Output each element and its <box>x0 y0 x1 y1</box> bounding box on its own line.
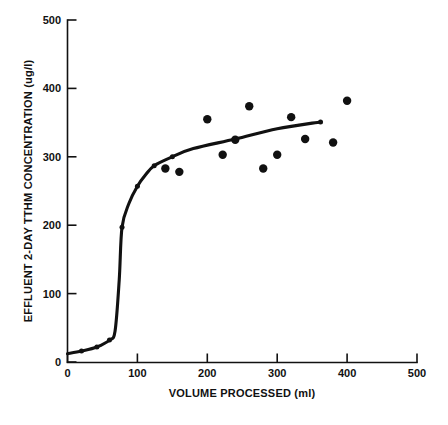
curve-node <box>79 349 84 354</box>
x-axis-title: VOLUME PROCESSED (ml) <box>169 387 316 399</box>
scatter-point <box>231 136 239 144</box>
x-axis-group: 0 100 200 300 400 500 VOLUME PROCESSED (… <box>64 354 426 400</box>
scatter-point <box>218 151 226 159</box>
y-tick-label-0: 0 <box>55 356 61 368</box>
x-tick-label-400: 400 <box>338 367 356 379</box>
curve-node <box>94 344 99 349</box>
scatter-point <box>259 164 267 172</box>
y-axis-group: 500 400 300 200 100 0 EFFLUENT 2-DAY TTH… <box>22 14 77 368</box>
cropped-caption <box>0 419 448 425</box>
y-tick-label-500: 500 <box>43 14 61 26</box>
scatter-point <box>161 164 169 172</box>
scatter-point <box>301 135 309 143</box>
x-tick-label-100: 100 <box>128 367 146 379</box>
figure-container: 500 400 300 200 100 0 EFFLUENT 2-DAY TTH… <box>0 0 448 425</box>
x-tick-label-300: 300 <box>268 367 286 379</box>
scatter-point <box>329 138 337 146</box>
scatter-point <box>245 102 253 110</box>
y-tick-label-300: 300 <box>43 151 61 163</box>
y-axis-title: EFFLUENT 2-DAY TTHM CONCENTRATION (ug/l) <box>22 60 34 323</box>
y-tick-label-200: 200 <box>43 219 61 231</box>
fitted-breakthrough-curve <box>68 122 321 354</box>
x-tick-label-200: 200 <box>198 367 216 379</box>
x-tick-label-0: 0 <box>64 367 70 379</box>
curve-node <box>170 154 175 159</box>
scatter-point <box>175 168 183 176</box>
curve-node <box>135 184 140 189</box>
curve-node <box>152 163 157 168</box>
breakthrough-curve-chart: 500 400 300 200 100 0 EFFLUENT 2-DAY TTH… <box>0 0 448 425</box>
curve-node <box>318 119 323 124</box>
scatter-point <box>203 115 211 123</box>
y-tick-label-400: 400 <box>43 82 61 94</box>
scatter-point-group <box>161 97 351 177</box>
scatter-point <box>343 97 351 105</box>
x-tick-label-500: 500 <box>408 367 426 379</box>
curve-node <box>107 338 112 343</box>
scatter-point <box>273 151 281 159</box>
scatter-point <box>287 113 295 121</box>
curve-node <box>120 225 125 230</box>
y-tick-label-100: 100 <box>43 288 61 300</box>
